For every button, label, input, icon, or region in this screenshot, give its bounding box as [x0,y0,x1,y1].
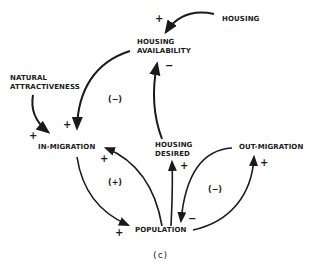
node-natural-attractiveness-line2: ATTRACTIVENESS [10,83,80,92]
arrow-natural-to-inmigration [32,95,48,132]
arrow-desired-to-availability [154,64,162,139]
sign-natural-to-inmigration: + [29,131,37,141]
sign-housing-to-availability: + [155,14,163,24]
causal-loop-diagram: HOUSING HOUSING AVAILABILITY NATURAL ATT… [0,0,316,273]
node-natural-attractiveness-line1: NATURAL [10,74,47,83]
node-out-migration: OUT-MIGRATION [239,143,303,152]
node-population: POPULATION [135,226,186,235]
sign-population-to-outmigration: + [260,158,268,168]
node-housing-availability-line2: AVAILABILITY [137,47,191,56]
node-in-migration: IN-MIGRATION [38,143,95,152]
figure-caption: (c) [152,250,168,260]
node-housing: HOUSING [222,15,259,24]
arrow-population-to-desired [171,162,172,226]
loop-left-upper: (−) [108,95,122,104]
node-housing-desired-line2: DESIRED [155,150,190,159]
loop-left-lower: (+) [108,178,122,187]
sign-inmigration-to-population: + [115,228,123,238]
arrow-housing-to-availability [166,13,214,32]
sign-desired-to-availability: − [165,61,173,71]
sign-outmigration-to-population: − [188,214,196,224]
arrow-availability-to-inmigration [77,51,130,128]
node-housing-desired-line1: HOUSING [155,141,192,150]
arrow-inmigration-to-population [77,157,128,225]
loop-right: (−) [208,185,222,194]
arrow-population-to-outmigration [193,157,254,230]
sign-population-to-inmigration: + [100,154,108,164]
sign-population-to-desired: + [180,161,188,171]
sign-availability-to-inmigration: + [63,120,71,130]
arrow-population-to-inmigration [106,148,162,226]
node-housing-availability-line1: HOUSING [137,38,174,47]
